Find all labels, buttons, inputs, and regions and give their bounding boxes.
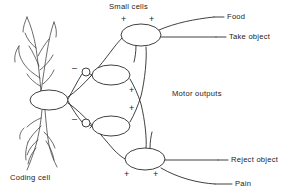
label-coding-cell: Coding cell bbox=[10, 174, 50, 182]
label-take-object: Take object bbox=[229, 33, 270, 41]
small-cell-lower-middle-soma bbox=[92, 116, 130, 136]
label-reject-object: Reject object bbox=[231, 156, 278, 164]
inhibitory-synapse-upper-icon bbox=[82, 68, 90, 76]
label-food: Food bbox=[227, 13, 245, 21]
label-small-cells: Small cells bbox=[109, 3, 148, 11]
small-cell-top-stub bbox=[134, 46, 136, 62]
label-motor-outputs: Motor outputs bbox=[172, 90, 222, 98]
neural-circuit-diagram: Small cells Coding cell Motor outputs Fo… bbox=[0, 0, 292, 195]
upper-middle-input-stub bbox=[90, 74, 92, 77]
sign-bottom-cell-left: + bbox=[124, 170, 129, 179]
small-cell-top-soma bbox=[121, 24, 161, 46]
diagram-canvas bbox=[0, 0, 292, 195]
coding-cell-axon-branches bbox=[68, 36, 128, 160]
small-cell-bottom-stub bbox=[150, 132, 152, 148]
output-line-food bbox=[159, 17, 214, 30]
small-cell-bottom-soma bbox=[125, 148, 165, 170]
sign-lower-middle-excitatory: + bbox=[129, 104, 134, 113]
coding-cell-basal-dendrites bbox=[20, 110, 57, 170]
sign-upper-middle-excitatory: + bbox=[129, 86, 134, 95]
output-line-pain bbox=[161, 168, 215, 184]
coding-cell-apical-dendrites bbox=[15, 17, 57, 92]
coding-cell-soma bbox=[30, 90, 68, 110]
sign-upper-middle-inhibitory: – bbox=[72, 64, 77, 73]
inhibitory-synapse-lower-icon bbox=[82, 119, 90, 127]
sign-lower-middle-inhibitory: – bbox=[72, 115, 77, 124]
small-cell-upper-middle-soma bbox=[92, 65, 130, 85]
sign-top-cell-right: + bbox=[149, 15, 154, 24]
lower-middle-input-stub bbox=[90, 125, 92, 128]
sign-top-cell-left: + bbox=[121, 15, 126, 24]
label-pain: Pain bbox=[235, 180, 251, 188]
sign-bottom-cell-right: + bbox=[153, 170, 158, 179]
